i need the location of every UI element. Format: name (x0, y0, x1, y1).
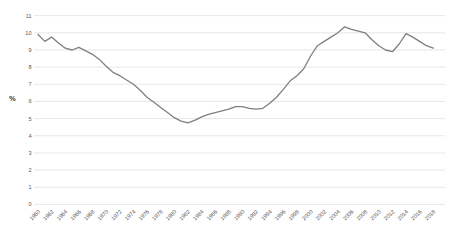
data-series-line (38, 27, 433, 123)
x-tick-label: 1982 (178, 208, 191, 221)
y-tick-label: 7 (28, 81, 31, 87)
x-tick-label: 2018 (423, 208, 436, 221)
x-tick-label: 2000 (301, 208, 314, 221)
x-axis-tick-labels: 1960196219641966196819701972197419761978… (28, 208, 436, 221)
y-tick-label: 8 (28, 64, 31, 70)
x-tick-label: 1980 (164, 208, 177, 221)
y-tick-label: 4 (28, 133, 31, 139)
y-tick-label: 1 (28, 184, 31, 190)
x-tick-label: 1962 (42, 208, 55, 221)
x-tick-label: 1972 (110, 208, 123, 221)
x-tick-label: 2012 (383, 208, 396, 221)
x-tick-label: 1994 (260, 208, 273, 221)
line-chart-svg: 01234567891011 1960196219641966196819701… (0, 0, 450, 234)
x-tick-label: 1964 (55, 208, 68, 221)
gridlines-group (34, 16, 445, 205)
x-tick-label: 2010 (369, 208, 382, 221)
x-tick-label: 2004 (328, 208, 341, 221)
y-tick-label: 0 (28, 201, 31, 207)
x-tick-label: 2002 (314, 208, 327, 221)
x-tick-label: 1960 (28, 208, 41, 221)
x-tick-label: 2016 (410, 208, 423, 221)
y-tick-label: 2 (28, 167, 31, 173)
x-tick-label: 1968 (83, 208, 96, 221)
y-tick-label: 11 (26, 13, 32, 19)
y-tick-label: 10 (25, 30, 31, 36)
x-tick-label: 2014 (396, 208, 409, 221)
x-tick-label: 1990 (233, 208, 246, 221)
x-tick-label: 1984 (192, 208, 205, 221)
x-tick-label: 1992 (246, 208, 259, 221)
y-tick-label: 6 (28, 98, 31, 104)
y-axis-tick-labels: 01234567891011 (25, 13, 31, 208)
y-tick-label: 5 (28, 116, 31, 122)
line-chart: 01234567891011 1960196219641966196819701… (0, 0, 450, 234)
x-tick-label: 2008 (355, 208, 368, 221)
x-tick-label: 1986 (205, 208, 218, 221)
y-tick-label: 3 (28, 150, 31, 156)
y-tick-label: 9 (28, 47, 31, 53)
x-tick-label: 1976 (137, 208, 150, 221)
x-tick-label: 1966 (69, 208, 82, 221)
x-tick-label: 1978 (151, 208, 164, 221)
x-tick-label: 1974 (124, 208, 137, 221)
x-tick-label: 2006 (342, 208, 355, 221)
x-tick-label: 1970 (96, 208, 109, 221)
x-tick-label: 1988 (219, 208, 232, 221)
x-tick-label: 1996 (273, 208, 286, 221)
x-tick-label: 1998 (287, 208, 300, 221)
y-axis-title: % (9, 94, 16, 103)
